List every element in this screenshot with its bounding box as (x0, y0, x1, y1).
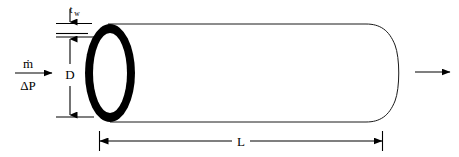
annulus-inner-bore (93, 33, 127, 113)
pressure-drop-label: ΔP (20, 78, 36, 93)
diagram-canvas: t w D L ṁ ΔP (0, 0, 459, 157)
diameter-label: D (65, 67, 74, 82)
wall-thickness-label-subscript: w (74, 9, 80, 18)
pipe-wall-annulus (85, 24, 135, 122)
pipe-flow-diagram: t w D L ṁ ΔP (0, 0, 459, 157)
cylinder-right-cap (366, 24, 399, 122)
wall-thickness-label-base: t (69, 3, 72, 15)
length-label: L (237, 134, 245, 149)
mass-flow-rate-label: ṁ (23, 56, 33, 71)
cylinder-body (108, 24, 399, 122)
